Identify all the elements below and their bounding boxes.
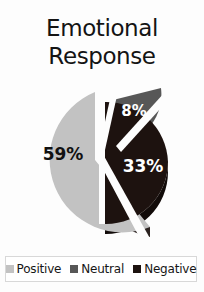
legend-label-negative: Negative — [144, 263, 196, 275]
pie-chart: 59% 8% 33% — [0, 82, 204, 252]
legend-swatch-positive-icon — [6, 265, 14, 273]
legend-item-neutral[interactable]: Neutral — [70, 263, 124, 275]
legend-item-negative[interactable]: Negative — [133, 263, 196, 275]
legend-label-positive: Positive — [17, 263, 62, 275]
legend-item-positive[interactable]: Positive — [6, 263, 62, 275]
title-line-1: Emotional — [0, 14, 204, 42]
pie-chart-svg: 59% 8% 33% — [0, 82, 204, 252]
chart-legend: Positive Neutral Negative — [5, 256, 197, 282]
title-line-2: Response — [0, 42, 204, 70]
chart-page: Emotional Response 59% 8% — [0, 0, 204, 292]
slice-label-positive: 59% — [43, 144, 84, 164]
page-title: Emotional Response — [0, 14, 204, 70]
slice-label-negative: 33% — [123, 156, 164, 176]
legend-swatch-negative-icon — [133, 265, 141, 273]
legend-label-neutral: Neutral — [81, 263, 124, 275]
legend-swatch-neutral-icon — [70, 265, 78, 273]
slice-label-neutral: 8% — [121, 102, 146, 120]
